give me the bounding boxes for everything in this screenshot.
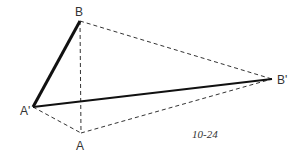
dashed-line-B-Bprime bbox=[80, 21, 272, 79]
label-B-prime: B' bbox=[277, 73, 287, 87]
label-B: B bbox=[75, 5, 83, 19]
dashed-line-A-Bprime bbox=[81, 79, 272, 133]
label-A-prime: A' bbox=[20, 104, 30, 118]
dashed-line-B-A bbox=[80, 21, 81, 133]
figure-caption: 10-24 bbox=[192, 128, 218, 140]
solid-line-B-Aprime bbox=[33, 21, 80, 107]
solid-line-Aprime-Bprime bbox=[33, 79, 272, 107]
diagram-canvas: B A' A B' 10-24 bbox=[0, 0, 308, 159]
dashed-line-Aprime-A bbox=[33, 107, 81, 133]
geometry-figure: B A' A B' 10-24 bbox=[0, 0, 308, 159]
label-A: A bbox=[76, 139, 84, 153]
